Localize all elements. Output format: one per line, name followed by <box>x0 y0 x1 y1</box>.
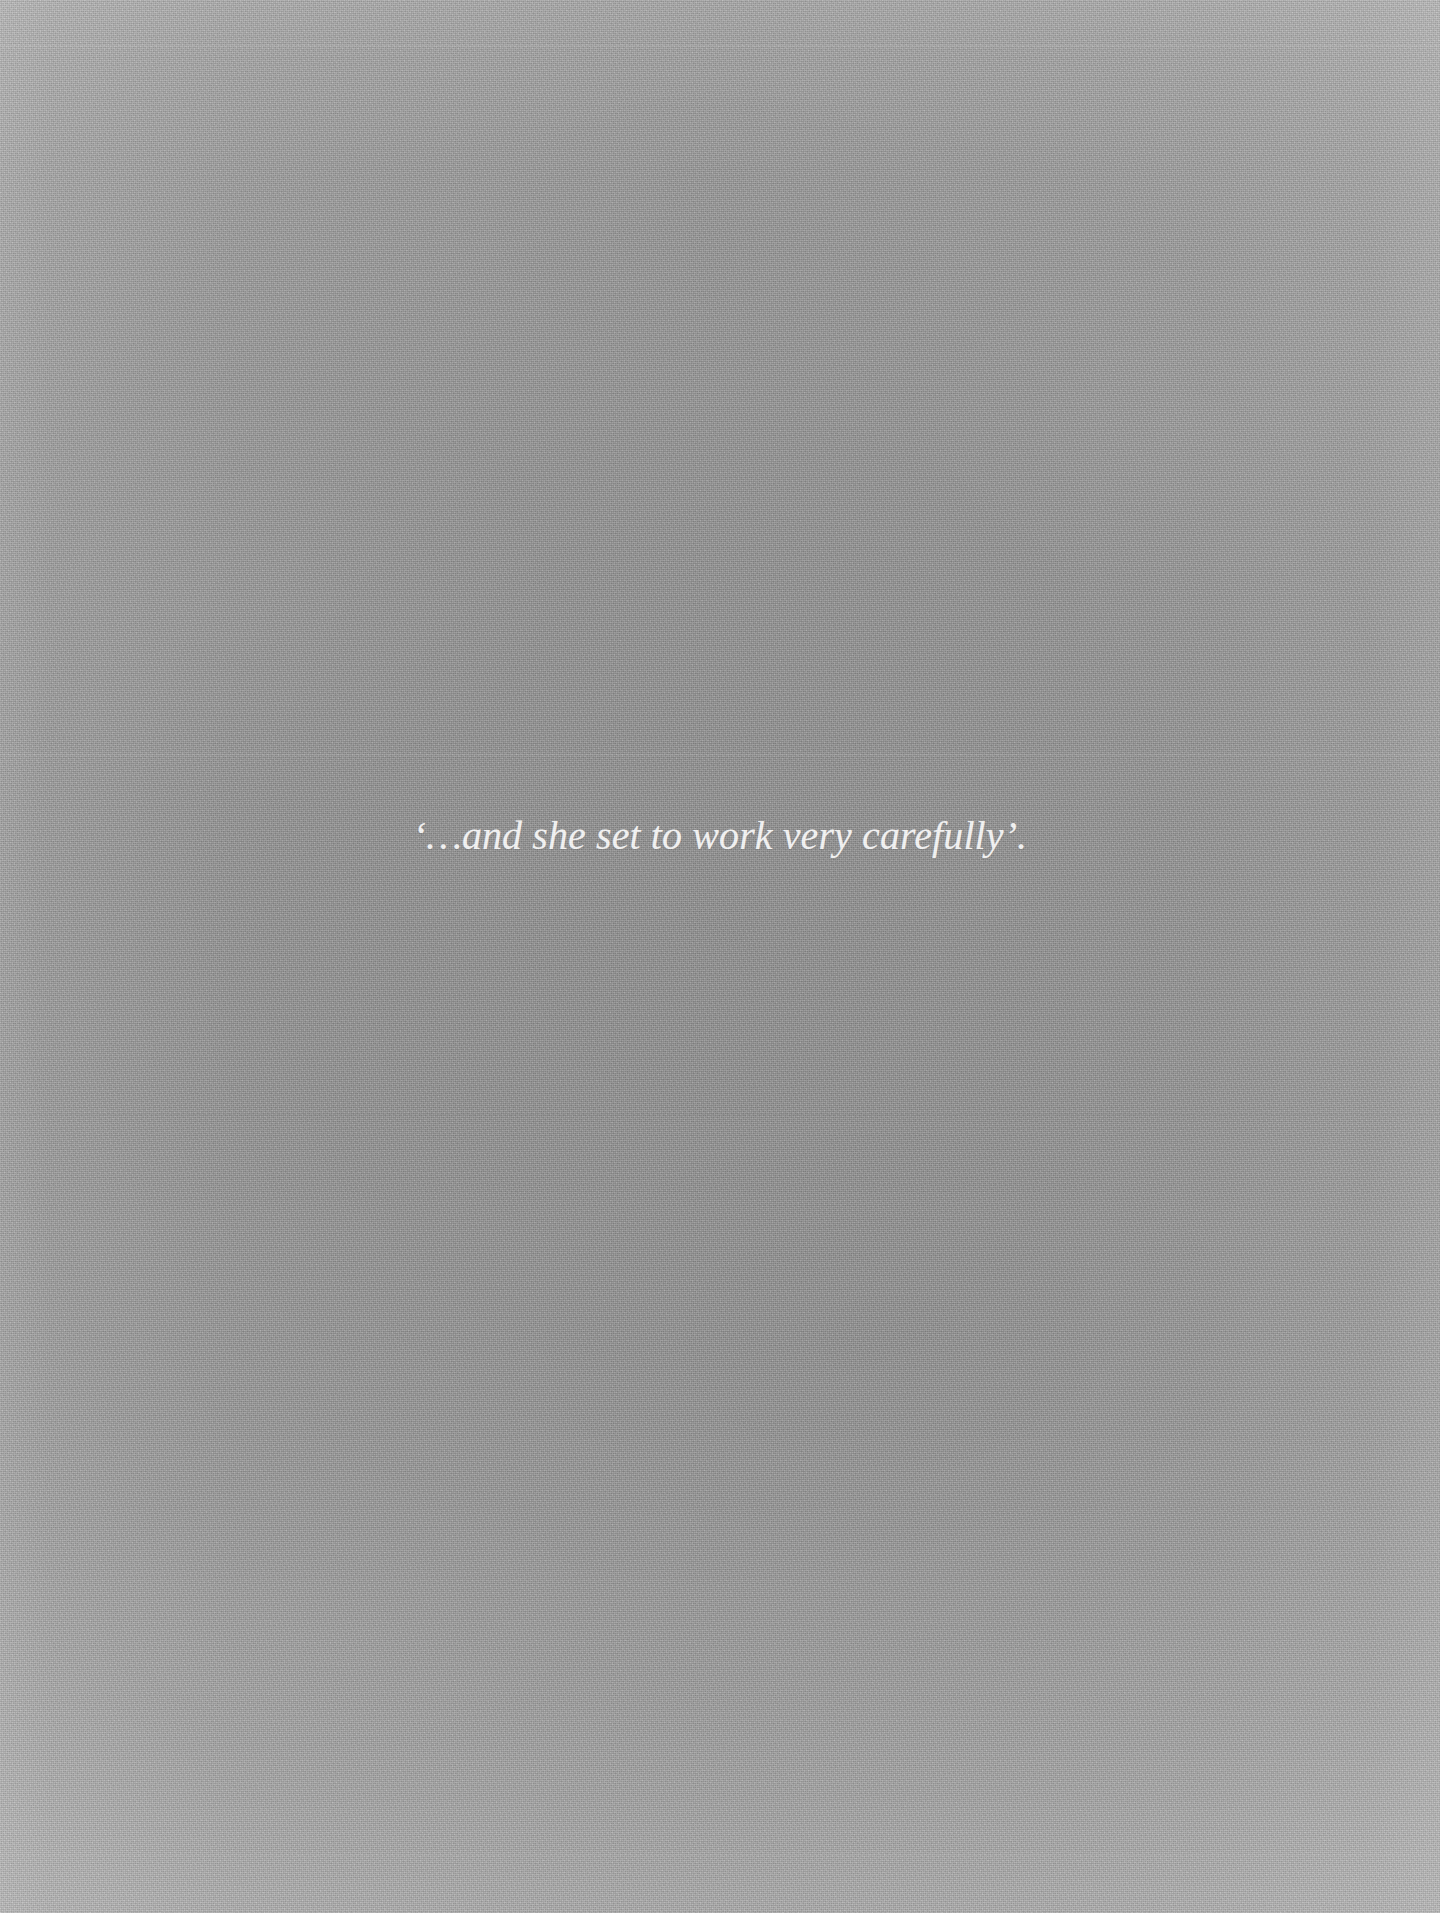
caption-layer: ‘…and she set to work very carefully’. <box>0 0 1440 1913</box>
page-caption-text: ‘…and she set to work very carefully’. <box>0 808 1440 864</box>
scanned-page: ‘…and she set to work very carefully’. <box>0 0 1440 1913</box>
